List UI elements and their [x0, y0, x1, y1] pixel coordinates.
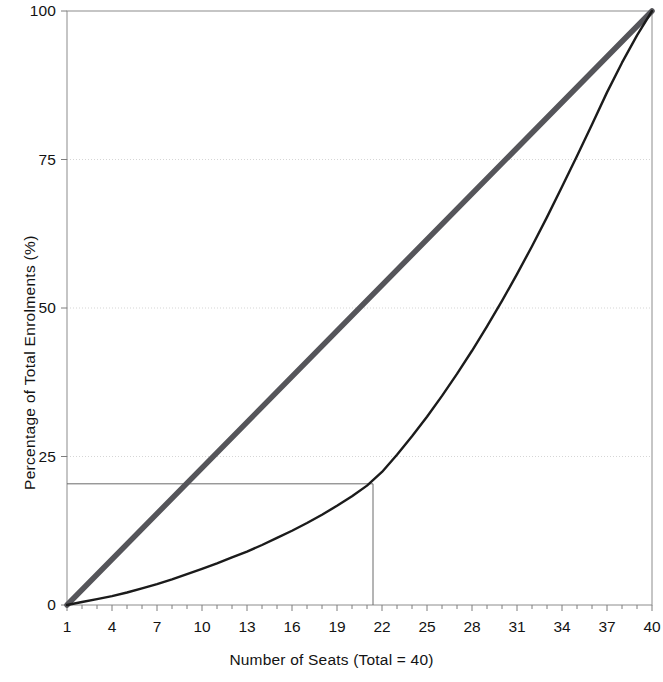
y-tick-label: 25 — [39, 449, 56, 465]
y-tick-label: 50 — [39, 300, 56, 316]
y-axis-ticks — [61, 11, 67, 605]
x-axis-title: Number of Seats (Total = 40) — [0, 652, 663, 668]
x-tick-label: 40 — [622, 619, 663, 635]
y-axis-title: Percentage of Total Enrolments (%) — [22, 235, 38, 490]
y-tick-label: 75 — [39, 152, 56, 168]
y-tick-label: 0 — [47, 597, 56, 613]
chart-plot-area — [0, 0, 663, 682]
x-axis-ticks — [67, 605, 652, 611]
lorenz-curve-chart: 0255075100 1471013161922252831343740 Per… — [0, 0, 663, 682]
y-tick-label: 100 — [30, 3, 56, 19]
